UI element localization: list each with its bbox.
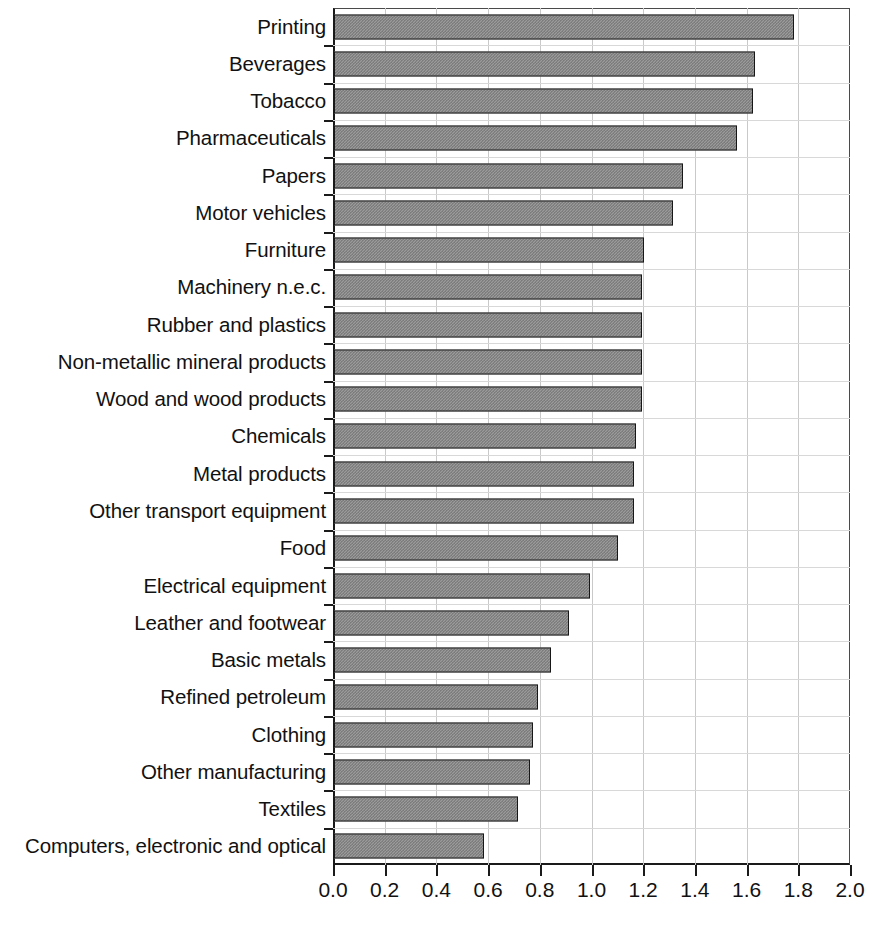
x-axis-tick-label: 0.4: [422, 878, 451, 902]
y-axis-tick: [324, 679, 333, 681]
y-axis-tick: [324, 790, 333, 792]
category-label: Motor vehicles: [195, 203, 326, 224]
bar: [334, 797, 518, 822]
x-axis-tick: [436, 865, 438, 876]
x-axis-tick: [333, 865, 335, 876]
category-label: Basic metals: [211, 650, 326, 671]
bar: [334, 51, 755, 76]
category-label: Other manufacturing: [141, 762, 326, 783]
x-axis-tick: [488, 865, 490, 876]
bar: [334, 648, 551, 673]
bar: [334, 163, 683, 188]
y-axis-tick: [324, 157, 333, 159]
category-label: Papers: [262, 165, 326, 186]
bar: [334, 499, 634, 524]
y-axis-tick: [324, 716, 333, 718]
y-axis-tick: [324, 343, 333, 345]
bar: [334, 573, 590, 598]
bar: [334, 536, 618, 561]
category-label: Wood and wood products: [96, 389, 326, 410]
category-label: Machinery n.e.c.: [177, 277, 326, 298]
category-label: Metal products: [193, 464, 326, 485]
y-axis-tick: [324, 604, 333, 606]
y-axis-tick: [324, 45, 333, 47]
y-axis-tick: [324, 641, 333, 643]
x-axis-tick: [540, 865, 542, 876]
category-label: Other transport equipment: [89, 501, 326, 522]
y-axis-tick: [324, 492, 333, 494]
y-axis-tick: [324, 120, 333, 122]
x-axis-tick-label: 2.0: [835, 878, 864, 902]
bar-row: Printing: [0, 8, 872, 45]
category-label: Food: [280, 538, 326, 559]
y-axis-tick: [324, 83, 333, 85]
bar: [334, 275, 642, 300]
category-label: Printing: [257, 16, 326, 37]
x-axis-tick: [695, 865, 697, 876]
bar: [334, 200, 673, 225]
bar: [334, 387, 642, 412]
bar-row: Other transport equipment: [0, 492, 872, 529]
bar-row: Clothing: [0, 716, 872, 753]
x-axis-tick: [798, 865, 800, 876]
y-axis-tick: [324, 418, 333, 420]
bar-row: Metal products: [0, 455, 872, 492]
x-axis-tick-label: 0.2: [370, 878, 399, 902]
category-label: Electrical equipment: [143, 575, 326, 596]
x-axis-tick: [592, 865, 594, 876]
x-axis-tick-label: 1.4: [680, 878, 709, 902]
bar-row: Food: [0, 530, 872, 567]
category-label: Textiles: [258, 799, 326, 820]
y-axis-tick: [324, 567, 333, 569]
bar: [334, 424, 636, 449]
y-axis-tick: [324, 381, 333, 383]
category-label: Clothing: [252, 724, 326, 745]
x-axis-tick: [850, 865, 852, 876]
bar-row: Furniture: [0, 232, 872, 269]
bar-row: Basic metals: [0, 641, 872, 678]
bar-row: Other manufacturing: [0, 753, 872, 790]
bar-row: Motor vehicles: [0, 194, 872, 231]
bar-row: Machinery n.e.c.: [0, 269, 872, 306]
y-axis-tick: [324, 530, 333, 532]
y-axis-tick: [324, 194, 333, 196]
x-axis-tick-label: 1.2: [629, 878, 658, 902]
category-label: Chemicals: [231, 426, 326, 447]
bar-row: Wood and wood products: [0, 381, 872, 418]
x-axis-tick-label: 0.0: [318, 878, 347, 902]
bar-row: Electrical equipment: [0, 567, 872, 604]
category-label: Leather and footwear: [134, 613, 326, 634]
x-axis-tick-label: 1.8: [784, 878, 813, 902]
category-label: Beverages: [229, 54, 326, 75]
bar: [334, 685, 538, 710]
x-axis: 0.00.20.40.60.81.01.21.41.61.82.0: [0, 865, 872, 925]
y-axis-tick: [324, 269, 333, 271]
bar: [334, 14, 794, 39]
category-label: Tobacco: [250, 91, 326, 112]
bar-row: Tobacco: [0, 83, 872, 120]
bar: [334, 610, 569, 635]
bar-chart: PrintingBeveragesTobaccoPharmaceuticalsP…: [0, 0, 872, 931]
bar-row: Textiles: [0, 790, 872, 827]
x-axis-tick-label: 0.6: [473, 878, 502, 902]
x-axis-tick-label: 0.8: [525, 878, 554, 902]
x-axis-tick: [385, 865, 387, 876]
x-axis-tick: [643, 865, 645, 876]
bar-row: Computers, electronic and optical: [0, 828, 872, 865]
bar-rows: PrintingBeveragesTobaccoPharmaceuticalsP…: [0, 8, 872, 865]
x-axis-tick-label: 1.0: [577, 878, 606, 902]
category-label: Pharmaceuticals: [176, 128, 326, 149]
bar: [334, 722, 533, 747]
y-axis-tick: [324, 455, 333, 457]
x-axis-tick: [747, 865, 749, 876]
category-label: Computers, electronic and optical: [25, 836, 326, 857]
bar: [334, 834, 484, 859]
bar: [334, 759, 530, 784]
bar: [334, 312, 642, 337]
bar-row: Papers: [0, 157, 872, 194]
bar: [334, 238, 644, 263]
bar: [334, 349, 642, 374]
bar: [334, 126, 737, 151]
bar-row: Non-metallic mineral products: [0, 343, 872, 380]
category-label: Furniture: [245, 240, 326, 261]
